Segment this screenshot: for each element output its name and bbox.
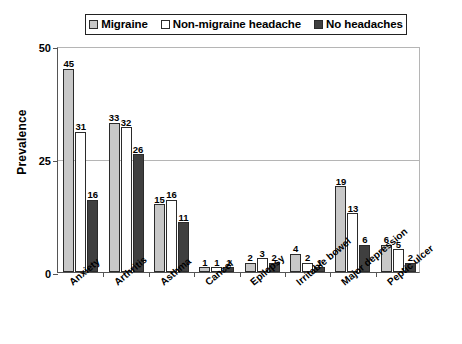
bar-migraine[interactable]: 33 bbox=[109, 123, 120, 272]
bar-migraine[interactable]: 19 bbox=[335, 186, 346, 272]
x-axis-tick bbox=[376, 272, 377, 277]
bar-value-label: 15 bbox=[154, 195, 165, 205]
bar-value-label: 32 bbox=[121, 118, 132, 128]
bar-value-label: 2 bbox=[248, 253, 253, 263]
bar-value-label: 13 bbox=[348, 204, 359, 214]
x-axis-tick bbox=[149, 272, 150, 277]
bar-group: 333226 bbox=[103, 48, 148, 272]
legend-item-label: Migraine bbox=[101, 19, 148, 31]
bar-value-label: 26 bbox=[133, 145, 144, 155]
legend-item-0[interactable]: Migraine bbox=[89, 19, 148, 31]
bar-migraine[interactable]: 2 bbox=[245, 263, 256, 272]
bar-value-label: 4 bbox=[293, 244, 298, 254]
bar-migraine[interactable]: 1 bbox=[199, 267, 210, 272]
x-axis-tick bbox=[240, 272, 241, 277]
bar-group: 453116 bbox=[58, 48, 103, 272]
bar-value-label: 16 bbox=[166, 190, 177, 200]
y-axis-title: Prevalence bbox=[15, 82, 29, 202]
bar-value-label: 45 bbox=[63, 59, 74, 69]
bar-migraine[interactable]: 4 bbox=[290, 254, 301, 272]
x-axis-tick bbox=[194, 272, 195, 277]
bar-value-label: 6 bbox=[362, 235, 367, 245]
y-axis-tick-label: 0 bbox=[45, 268, 58, 280]
bar-group: 151611 bbox=[149, 48, 194, 272]
bar-value-label: 19 bbox=[336, 177, 347, 187]
legend-swatch-icon bbox=[161, 20, 170, 29]
bar-chart: MigraineNon-migraine headacheNo headache… bbox=[0, 0, 462, 344]
legend-swatch-icon bbox=[89, 20, 98, 29]
legend-item-label: Non-migraine headache bbox=[173, 19, 301, 31]
legend-swatch-icon bbox=[314, 20, 323, 29]
bar-non-migraine-headache[interactable]: 31 bbox=[75, 132, 86, 272]
bar-value-label: 16 bbox=[87, 190, 98, 200]
legend-item-1[interactable]: Non-migraine headache bbox=[161, 19, 301, 31]
chart-legend: MigraineNon-migraine headacheNo headache… bbox=[85, 14, 407, 35]
x-axis-tick bbox=[285, 272, 286, 277]
x-axis-tick bbox=[330, 272, 331, 277]
bar-migraine[interactable]: 15 bbox=[154, 204, 165, 272]
bar-non-migraine-headache[interactable]: 16 bbox=[166, 200, 177, 272]
bar-migraine[interactable]: 45 bbox=[63, 69, 74, 272]
bar-value-label: 31 bbox=[75, 122, 86, 132]
legend-item-2[interactable]: No headaches bbox=[314, 19, 403, 31]
bar-value-label: 33 bbox=[109, 113, 120, 123]
bar-group: 111 bbox=[194, 48, 239, 272]
bar-value-label: 2 bbox=[305, 253, 310, 263]
bar-value-label: 3 bbox=[260, 249, 265, 259]
bar-group: 19136 bbox=[330, 48, 375, 272]
bar-value-label: 11 bbox=[178, 213, 188, 223]
x-axis-tick bbox=[103, 272, 104, 277]
bar-non-migraine-headache[interactable]: 32 bbox=[121, 127, 132, 272]
legend-item-label: No headaches bbox=[326, 19, 403, 31]
bar-group: 232 bbox=[240, 48, 285, 272]
bar-group: 421 bbox=[285, 48, 330, 272]
y-axis-tick-label: 25 bbox=[39, 155, 58, 167]
bar-value-label: 1 bbox=[202, 258, 207, 268]
plot-area: 0255045311633322615161111123242119136652 bbox=[57, 47, 420, 273]
y-axis-tick-label: 50 bbox=[39, 42, 58, 54]
